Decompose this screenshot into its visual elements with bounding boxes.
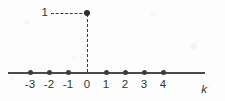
impulse-dot-k-0	[84, 10, 90, 16]
impulse-function-figure: 1 -3 -2 -1 0 1 2 3 4 k	[0, 0, 225, 101]
x-tick-label-minus-1: -1	[63, 78, 74, 90]
impulse-stem-dashed-line	[87, 14, 88, 72]
y-value-label-1: 1	[42, 6, 48, 18]
x-axis-label-k: k	[201, 83, 207, 95]
sample-dot-k-minus-1	[66, 70, 71, 75]
x-tick-label-minus-3: -3	[25, 78, 36, 90]
unit-amplitude-dashed-guide	[51, 13, 87, 14]
x-tick-label-2: 2	[122, 78, 129, 90]
x-tick-label-4: 4	[160, 78, 167, 90]
sample-dot-k-2	[123, 70, 128, 75]
sample-dot-k-1	[104, 70, 109, 75]
x-tick-label-1: 1	[103, 78, 110, 90]
sample-dot-k-4	[161, 70, 166, 75]
sample-dot-k-minus-2	[47, 70, 52, 75]
x-tick-label-minus-2: -2	[44, 78, 55, 90]
x-tick-label-3: 3	[141, 78, 148, 90]
sample-dot-k-minus-3	[28, 70, 33, 75]
x-tick-label-0: 0	[84, 78, 91, 90]
sample-dot-k-3	[142, 70, 147, 75]
